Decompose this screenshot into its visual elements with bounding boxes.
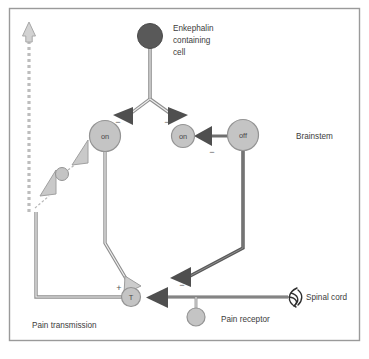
t-cell-label: T (129, 293, 134, 302)
off-cell-label: off (239, 131, 248, 140)
pain-receptor-cell[interactable] (187, 308, 205, 326)
on-right-cell-label: on (179, 132, 187, 141)
interneuron-cell[interactable] (56, 168, 69, 181)
sign-t-cell-plus: + (116, 283, 121, 293)
sign-enkephalin-left: − (115, 117, 120, 127)
sign-enkephalin-right: − (164, 117, 169, 127)
pain-receptor-label: Pain receptor (221, 315, 270, 324)
enkephalin-cell[interactable] (138, 24, 163, 49)
brainstem-label: Brainstem (296, 132, 333, 141)
on-left-cell-label: on (101, 132, 109, 141)
enkephalin-label-line2: containing (173, 36, 211, 45)
sign-off-to-on: − (209, 147, 214, 157)
sign-off-terminal-minus: − (179, 280, 184, 290)
pain-transmission-label: Pain transmission (32, 321, 97, 330)
spinal-cord-label: Spinal cord (306, 293, 347, 302)
enkephalin-label-line1: Enkephalin (173, 24, 214, 33)
pain-modulation-diagram: on on off T − − − + − Enkephalin contain… (0, 0, 369, 359)
figure-root: on on off T − − − + − Enkephalin contain… (0, 0, 369, 359)
enkephalin-label-line3: cell (173, 48, 185, 57)
